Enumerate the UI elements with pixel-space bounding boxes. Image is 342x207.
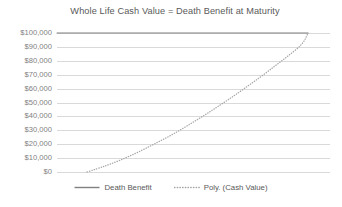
series-line xyxy=(87,33,308,172)
chart-legend: Death BenefitPoly. (Cash Value) xyxy=(0,183,342,192)
y-tick-label: $100,000 xyxy=(0,29,52,37)
legend-entry[interactable]: Poly. (Cash Value) xyxy=(174,183,268,192)
y-tick-label: $50,000 xyxy=(0,99,52,107)
y-tick-label: $20,000 xyxy=(0,140,52,148)
plot-area xyxy=(57,33,330,172)
chart-container: Whole Life Cash Value = Death Benefit at… xyxy=(0,0,342,207)
y-tick-label: $40,000 xyxy=(0,112,52,120)
y-tick-label: $70,000 xyxy=(0,71,52,79)
y-tick-label: $0 xyxy=(0,168,52,176)
chart-title: Whole Life Cash Value = Death Benefit at… xyxy=(30,6,320,16)
y-axis: $100,000$90,000$80,000$70,000$60,000$50,… xyxy=(0,33,52,172)
legend-label: Death Benefit xyxy=(104,183,151,192)
series-layer xyxy=(57,33,330,172)
y-tick-label: $80,000 xyxy=(0,57,52,65)
legend-label: Poly. (Cash Value) xyxy=(204,183,268,192)
legend-swatch xyxy=(74,184,100,191)
y-tick-label: $90,000 xyxy=(0,43,52,51)
y-tick-label: $10,000 xyxy=(0,154,52,162)
y-tick-label: $30,000 xyxy=(0,126,52,134)
y-tick-label: $60,000 xyxy=(0,85,52,93)
legend-swatch xyxy=(174,184,200,191)
gridline xyxy=(57,172,330,173)
legend-entry[interactable]: Death Benefit xyxy=(74,183,151,192)
